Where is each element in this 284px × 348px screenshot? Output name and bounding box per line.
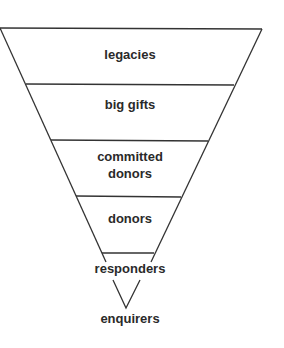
funnel-divider-1 bbox=[26, 84, 234, 85]
funnel-right-edge bbox=[151, 29, 262, 262]
stage-label-responders: responders bbox=[30, 260, 230, 277]
funnel-divider-2 bbox=[51, 140, 208, 141]
funnel-divider-3 bbox=[76, 196, 181, 197]
stage-label-enquirers: enquirers bbox=[30, 310, 230, 327]
stage-label-committed-line1: committed bbox=[30, 148, 230, 165]
funnel-divider-top bbox=[0, 28, 262, 29]
funnel-tip bbox=[113, 280, 140, 308]
stage-label-committed-donors: committed donors bbox=[30, 148, 230, 182]
stage-label-legacies: legacies bbox=[30, 46, 230, 63]
stage-label-committed-line2: donors bbox=[30, 165, 230, 182]
stage-label-donors: donors bbox=[30, 210, 230, 227]
stage-label-big-gifts: big gifts bbox=[30, 96, 230, 113]
